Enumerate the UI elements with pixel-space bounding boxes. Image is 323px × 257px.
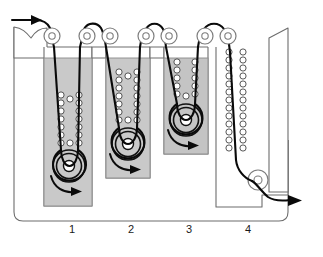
bubbles-3-center xyxy=(183,93,189,99)
top-roller-4 xyxy=(138,28,154,44)
zone-label-3: 3 xyxy=(186,223,192,235)
top-roller-6 xyxy=(197,28,213,44)
divider-wall-1-2 xyxy=(92,47,106,58)
divider-wall-2-3 xyxy=(150,47,164,58)
web-outlet-arrow xyxy=(288,195,302,206)
top-roller-5 xyxy=(161,28,177,44)
top-roller-1 xyxy=(44,28,60,44)
left-hood-panel xyxy=(14,27,47,58)
tank-liquid-1 xyxy=(44,58,92,206)
right-slanted-panel xyxy=(269,28,288,192)
zone-label-1: 1 xyxy=(69,223,75,235)
machine-schematic: 1 2 3 4 xyxy=(0,0,323,257)
zone-label-2: 2 xyxy=(128,223,134,235)
top-roller-7 xyxy=(220,28,236,44)
top-roller-2 xyxy=(79,28,95,44)
process-diagram: 1 2 3 4 xyxy=(0,0,323,257)
web-inlet-arrow xyxy=(12,15,42,25)
zone-label-4: 4 xyxy=(245,223,251,235)
top-roller-3 xyxy=(102,28,118,44)
